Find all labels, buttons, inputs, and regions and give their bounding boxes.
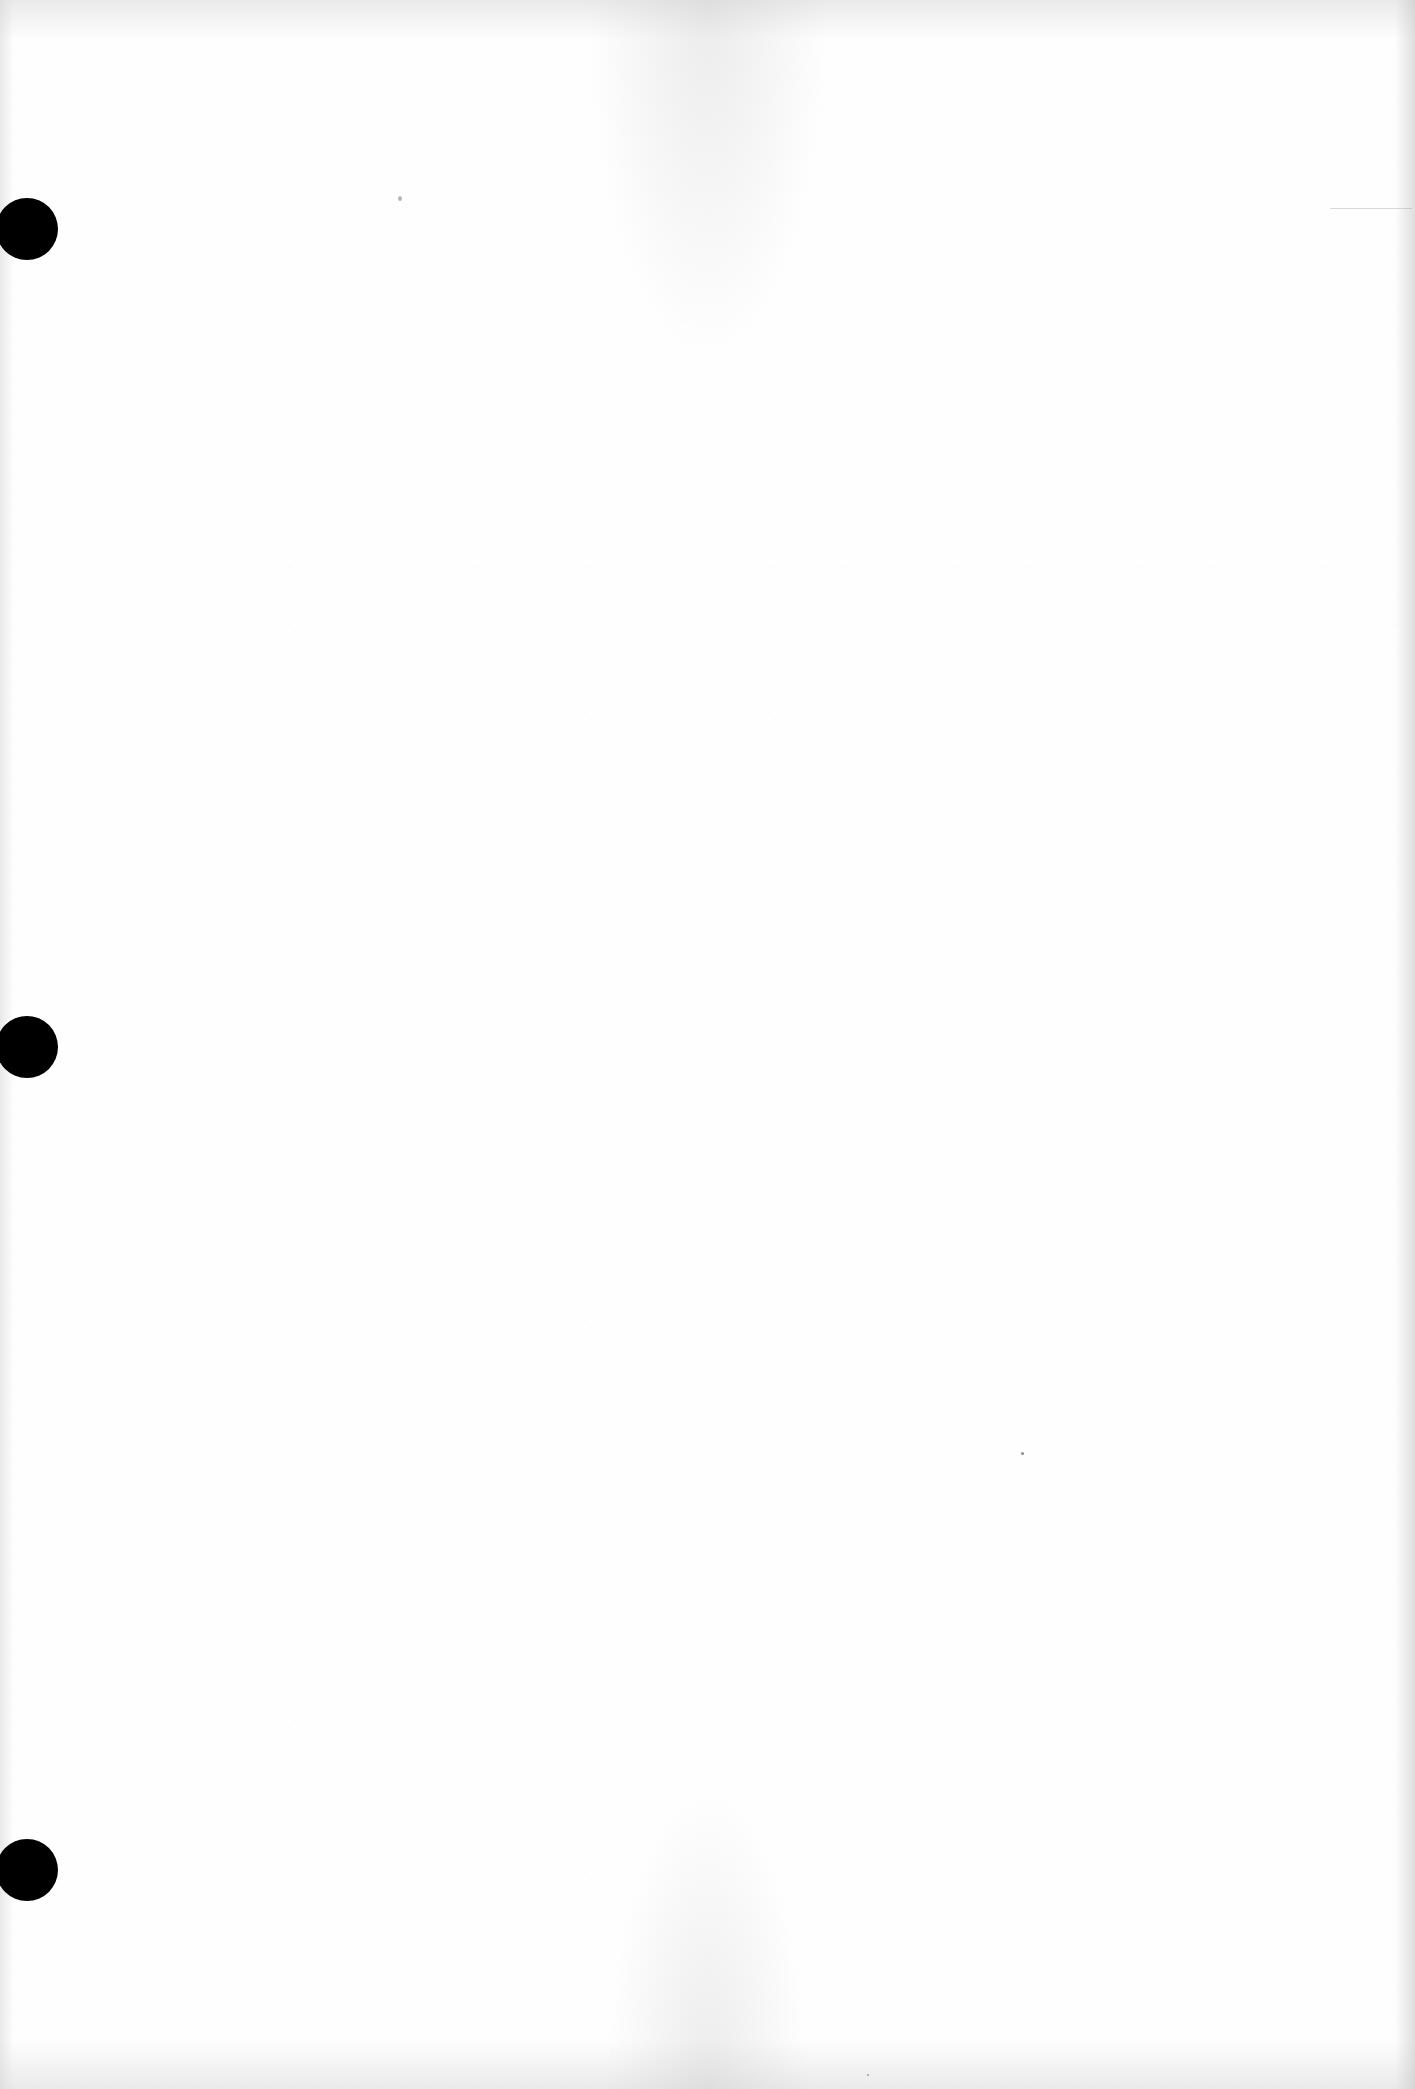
dust-speck xyxy=(867,2074,869,2076)
dust-speck xyxy=(398,196,402,201)
punch-hole-top xyxy=(0,198,58,260)
dust-speck xyxy=(1021,1452,1024,1455)
punch-hole-bottom xyxy=(0,1839,58,1901)
bleed-through-mark xyxy=(1330,208,1412,209)
punch-hole-middle xyxy=(0,1016,58,1078)
scan-noise-texture xyxy=(0,0,1415,2089)
scanned-page xyxy=(0,0,1415,2089)
